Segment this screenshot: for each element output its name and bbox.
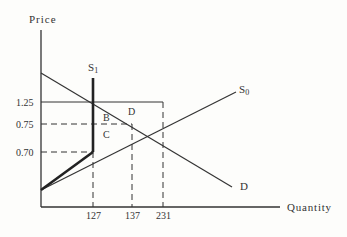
s1-label: S1 [88,61,98,75]
supply-s1-lower-segment [41,152,93,190]
y-tick-0.70: 0.70 [16,147,34,158]
y-tick-0.75: 0.75 [16,119,34,130]
y-axis-label: Price [29,13,57,25]
s0-label: S0 [239,83,249,97]
x-axis-label: Quantity [287,201,332,213]
region-d-label: D [128,106,135,117]
demand-label: D [240,180,248,192]
x-tick-137: 137 [125,210,140,221]
y-tick-1.25: 1.25 [16,97,34,108]
x-tick-231: 231 [156,210,171,221]
supply-s0-curve [41,92,236,190]
x-tick-127: 127 [86,210,101,221]
region-b-label: B [103,112,110,123]
supply-demand-diagram: Price Quantity S1 S0 D B C D 1.25 0.75 0… [0,0,347,237]
region-c-label: C [103,129,110,140]
